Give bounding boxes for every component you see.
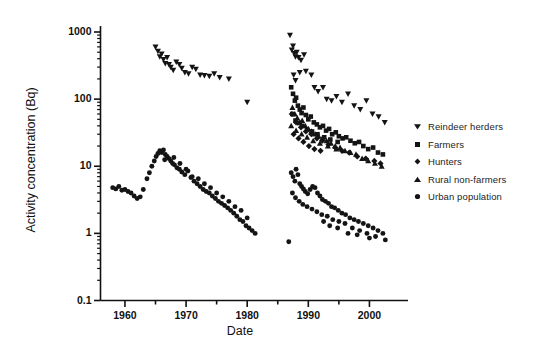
x-tick-label: 1980 xyxy=(217,309,277,321)
axis-lines xyxy=(101,26,409,301)
x-tick-label: 2000 xyxy=(339,309,399,321)
y-tick-label: 10 xyxy=(80,159,92,171)
legend-item-urban-population: Urban population xyxy=(406,188,552,206)
legend-item-hunters: Hunters xyxy=(406,153,552,171)
square-icon xyxy=(406,140,428,149)
y-tick-label: 1000 xyxy=(68,25,91,37)
x-tick-label: 1990 xyxy=(278,309,338,321)
x-tick-label: 1970 xyxy=(156,309,216,321)
y-tick-label: 100 xyxy=(74,92,92,104)
y-axis-title: Activity concentration (Bq) xyxy=(24,35,38,285)
triangle-up-icon xyxy=(406,175,428,184)
legend: Reindeer herders Farmers Hunters Rural n… xyxy=(406,118,552,206)
y-axis-ticks xyxy=(94,32,101,301)
y-tick-label: 0.1 xyxy=(77,294,92,306)
x-axis-ticks xyxy=(125,301,369,308)
x-tick-label: 1960 xyxy=(95,309,155,321)
diamond-icon xyxy=(406,157,428,166)
legend-label-farmers: Farmers xyxy=(428,139,464,150)
x-axis-title: Date xyxy=(180,324,300,338)
circle-icon xyxy=(406,192,428,201)
legend-label-rural-non-farmers: Rural non-farmers xyxy=(428,174,506,185)
figure-scatter-activity-concentration: Activity concentration (Bq) Date Reindee… xyxy=(0,0,552,350)
legend-label-hunters: Hunters xyxy=(428,156,462,167)
legend-item-farmers: Farmers xyxy=(406,136,552,154)
triangle-down-icon xyxy=(406,122,428,131)
legend-label-urban-population: Urban population xyxy=(428,191,502,202)
y-tick-label: 1 xyxy=(86,226,92,238)
legend-item-reindeer-herders: Reindeer herders xyxy=(406,118,552,136)
series-urban-population xyxy=(110,147,388,244)
legend-item-rural-non-farmers: Rural non-farmers xyxy=(406,171,552,189)
series-reindeer-herders xyxy=(153,33,388,126)
legend-label-reindeer-herders: Reindeer herders xyxy=(428,121,503,132)
